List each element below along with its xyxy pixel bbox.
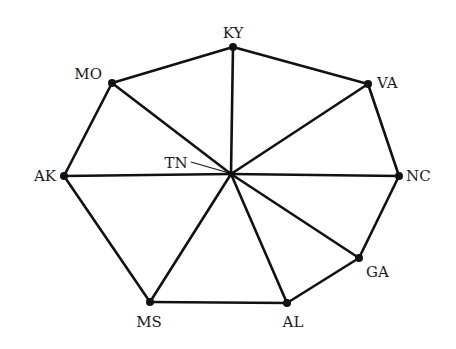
edge-tn-ak bbox=[64, 174, 231, 176]
node-ga bbox=[355, 254, 363, 262]
edge-ky-va bbox=[233, 47, 368, 84]
node-va bbox=[364, 80, 372, 88]
label-va: VA bbox=[376, 74, 398, 92]
state-graph-diagram: KYMOVAAKNCTNGAALMS bbox=[0, 0, 456, 349]
edge-tn-nc bbox=[231, 174, 399, 176]
node-ms bbox=[146, 298, 154, 306]
edge-nc-ga bbox=[359, 176, 399, 258]
node-mo bbox=[108, 79, 116, 87]
label-mo: MO bbox=[74, 65, 102, 83]
edge-ak-mo bbox=[64, 83, 112, 176]
label-ga: GA bbox=[366, 263, 389, 281]
label-nc: NC bbox=[406, 167, 431, 185]
edge-al-ms bbox=[150, 302, 287, 303]
node-al bbox=[283, 299, 291, 307]
edge-ga-al bbox=[287, 258, 359, 303]
edge-mo-ky bbox=[112, 47, 233, 83]
node-nc bbox=[395, 172, 403, 180]
node-ky bbox=[229, 43, 237, 51]
edge-tn-va bbox=[231, 84, 368, 174]
edge-ms-ak bbox=[64, 176, 150, 302]
node-ak bbox=[60, 172, 68, 180]
node-tn bbox=[228, 171, 234, 177]
label-al: AL bbox=[282, 313, 304, 331]
label-ky: KY bbox=[223, 24, 245, 42]
label-ms: MS bbox=[136, 313, 162, 331]
label-tn: TN bbox=[164, 154, 187, 172]
edge-tn-ms bbox=[150, 174, 231, 302]
edge-tn-ky bbox=[231, 47, 233, 174]
label-ak: AK bbox=[33, 167, 57, 185]
edge-va-nc bbox=[368, 84, 399, 176]
